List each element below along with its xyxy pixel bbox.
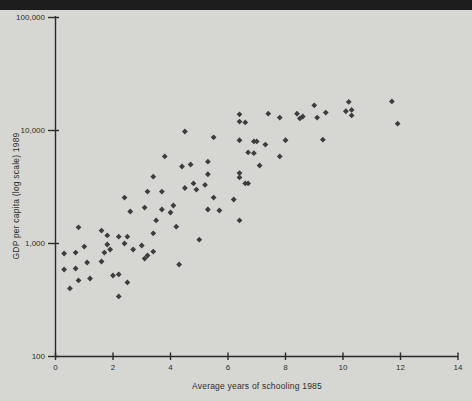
data-point (202, 182, 208, 188)
data-point (176, 262, 182, 268)
data-point (346, 99, 352, 105)
x-tick-label: 12 (396, 363, 405, 372)
data-point (257, 163, 263, 169)
data-point (145, 189, 151, 195)
x-tick-label: 2 (111, 363, 116, 372)
data-point (237, 119, 243, 125)
data-point (99, 228, 105, 234)
data-point (124, 280, 130, 286)
scatter-chart: 1001,00010,000100,00002468101214 GDP per… (0, 0, 472, 401)
data-point (237, 137, 243, 143)
data-point (349, 107, 355, 113)
data-point (196, 237, 202, 243)
data-point (173, 224, 179, 230)
data-point (211, 134, 217, 140)
data-point (205, 171, 211, 177)
data-point (116, 234, 122, 240)
data-point (61, 267, 67, 273)
data-point (395, 121, 401, 127)
data-point (216, 208, 222, 214)
x-tick-label: 8 (283, 363, 288, 372)
data-point (211, 195, 217, 201)
y-tick-label: 10,000 (21, 126, 46, 135)
data-point (323, 110, 329, 116)
data-point (73, 266, 79, 272)
y-axis-title: GDP per capita (log scale) 1989 (11, 131, 23, 261)
data-point (320, 137, 326, 143)
data-point (265, 111, 271, 117)
data-point (76, 224, 82, 230)
data-point (262, 142, 268, 148)
data-point (124, 234, 130, 240)
x-tick-label: 6 (226, 363, 231, 372)
data-point (245, 150, 251, 156)
data-point (182, 129, 188, 135)
data-point (193, 187, 199, 193)
data-point (116, 294, 122, 300)
data-point (283, 137, 289, 143)
data-point (168, 210, 174, 216)
data-point (107, 247, 113, 253)
data-point (153, 218, 159, 224)
data-point (277, 115, 283, 121)
data-point (99, 259, 105, 265)
data-point (188, 162, 194, 168)
data-point (122, 195, 128, 201)
data-point (110, 273, 116, 279)
data-point (179, 164, 185, 170)
data-point (237, 111, 243, 117)
data-point (349, 113, 355, 119)
data-point (191, 181, 197, 187)
data-point (142, 205, 148, 211)
data-point (389, 98, 395, 104)
data-point (343, 108, 349, 114)
data-point (81, 244, 87, 250)
data-point (231, 197, 237, 203)
data-point (237, 175, 243, 181)
data-point (116, 272, 122, 278)
data-point (84, 260, 90, 266)
data-point (150, 174, 156, 180)
data-point (314, 115, 320, 121)
data-point (294, 111, 300, 117)
data-point (205, 159, 211, 165)
data-point (67, 286, 73, 292)
y-tick-label: 100 (32, 352, 46, 361)
data-point (127, 209, 133, 215)
data-point (150, 230, 156, 236)
x-tick-label: 0 (53, 363, 58, 372)
data-point (150, 249, 156, 255)
data-point (130, 247, 136, 253)
data-point (104, 232, 110, 238)
data-point (170, 203, 176, 209)
x-axis-title: Average years of schooling 1985 (56, 381, 458, 391)
data-point (101, 250, 107, 256)
data-point (205, 207, 211, 213)
x-tick-label: 14 (454, 363, 463, 372)
data-point (162, 153, 168, 159)
x-tick-label: 4 (168, 363, 173, 372)
data-point (242, 119, 248, 125)
scatter-plot-canvas: 1001,00010,000100,00002468101214 (0, 0, 472, 401)
data-point (277, 153, 283, 159)
data-point (122, 241, 128, 247)
data-point (311, 102, 317, 108)
x-tick-label: 10 (339, 363, 348, 372)
data-point (139, 243, 145, 249)
data-point (87, 276, 93, 282)
y-tick-label: 100,000 (16, 13, 45, 22)
data-point (61, 251, 67, 257)
data-point (76, 278, 82, 284)
data-point (73, 250, 79, 256)
data-point (251, 150, 257, 156)
data-point (182, 185, 188, 191)
scanned-textbook-figure: 1001,00010,000100,00002468101214 GDP per… (0, 0, 472, 401)
data-point (159, 207, 165, 213)
data-point (104, 242, 110, 248)
data-point (159, 189, 165, 195)
data-point (237, 218, 243, 224)
y-tick-label: 1,000 (25, 239, 46, 248)
